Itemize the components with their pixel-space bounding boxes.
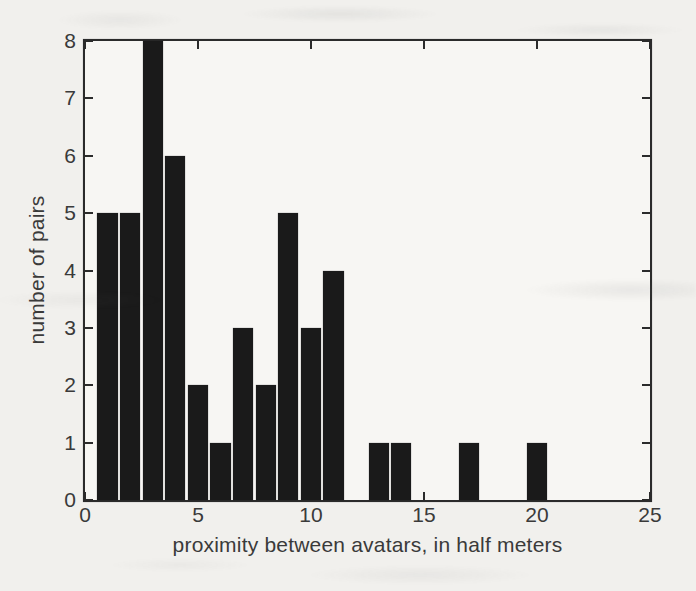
histogram-bar [301, 328, 321, 500]
y-tick-label: 2 [38, 374, 76, 396]
y-tick-mark [85, 442, 93, 444]
y-tick-mark [642, 499, 650, 501]
y-tick-mark [85, 155, 93, 157]
histogram-bar [391, 443, 411, 500]
y-axis-label: number of pairs [25, 196, 49, 345]
x-axis-label: proximity between avatars, in half meter… [85, 533, 650, 557]
x-tick-mark [423, 492, 425, 500]
y-tick-mark [642, 212, 650, 214]
y-tick-mark [642, 40, 650, 42]
y-tick-mark [642, 442, 650, 444]
y-tick-mark [642, 327, 650, 329]
y-tick-label: 6 [38, 145, 76, 167]
y-tick-mark [85, 270, 93, 272]
x-tick-mark [310, 41, 312, 49]
histogram-bar [369, 443, 389, 500]
histogram-bar [143, 41, 163, 500]
x-tick-mark [197, 41, 199, 49]
x-tick-label: 25 [628, 504, 672, 526]
y-tick-mark [85, 384, 93, 386]
histogram-bar [459, 443, 479, 500]
x-tick-mark [423, 41, 425, 49]
histogram-bar [120, 213, 140, 500]
histogram-bar [256, 385, 276, 500]
y-tick-mark [85, 327, 93, 329]
y-tick-label: 1 [38, 432, 76, 454]
x-tick-label: 20 [515, 504, 559, 526]
y-tick-mark [85, 97, 93, 99]
histogram-bar [527, 443, 547, 500]
x-tick-label: 15 [402, 504, 446, 526]
histogram-bar [278, 213, 298, 500]
x-tick-mark [649, 41, 651, 49]
histogram-bar [97, 213, 117, 500]
histogram-bar [165, 156, 185, 500]
scanned-figure: 012345678 0510152025 proximity between a… [0, 0, 696, 591]
y-tick-mark [642, 155, 650, 157]
histogram-bar [233, 328, 253, 500]
x-tick-mark [84, 41, 86, 49]
histogram-bar [188, 385, 208, 500]
y-tick-label: 8 [38, 30, 76, 52]
plot-area [83, 39, 652, 502]
x-tick-label: 0 [63, 504, 107, 526]
y-tick-mark [642, 270, 650, 272]
histogram-bar [210, 443, 230, 500]
y-tick-mark [642, 384, 650, 386]
x-tick-label: 5 [176, 504, 220, 526]
y-tick-label: 7 [38, 87, 76, 109]
histogram-bar [323, 271, 343, 501]
y-tick-mark [85, 499, 93, 501]
x-tick-mark [536, 41, 538, 49]
y-tick-mark [642, 97, 650, 99]
y-tick-mark [85, 40, 93, 42]
x-tick-label: 10 [289, 504, 333, 526]
y-tick-mark [85, 212, 93, 214]
